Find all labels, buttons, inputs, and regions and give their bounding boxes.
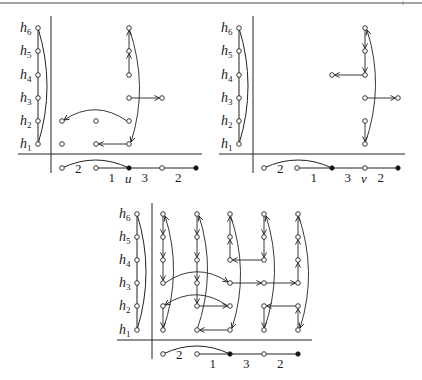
grid-node — [195, 258, 200, 263]
grid-node — [363, 142, 368, 147]
bottom-node-open — [262, 352, 267, 357]
grid-node — [228, 258, 233, 263]
row-label-h3: h3 — [20, 90, 32, 107]
grid-node — [127, 49, 132, 54]
bottom-node-filled — [330, 166, 334, 170]
grid-node — [363, 119, 368, 124]
grid-node — [60, 142, 65, 147]
row-label-h5: h5 — [20, 43, 32, 60]
row-label-h3: h3 — [119, 275, 131, 292]
h-chain-arc — [137, 214, 146, 330]
bottom-node-filled — [228, 352, 232, 356]
edge-weight-label: 3 — [142, 170, 149, 185]
h-node — [135, 258, 140, 263]
h-node — [36, 26, 41, 31]
h-node — [135, 304, 140, 309]
grid-node — [228, 304, 233, 309]
grid-node — [396, 96, 401, 101]
h-node — [36, 119, 41, 124]
bottom-node-filled — [194, 166, 198, 170]
edge-weight-label: 1 — [311, 170, 318, 185]
grid-node — [127, 73, 132, 78]
grid-node — [262, 235, 267, 240]
h-node — [36, 142, 41, 147]
grid-node — [161, 304, 166, 309]
edge-arrow — [163, 216, 174, 330]
grid-node — [160, 96, 165, 101]
grid-node — [161, 258, 166, 263]
grid-node — [363, 73, 368, 78]
edge-weight-label: 2 — [175, 170, 182, 185]
bottom-node-open — [160, 166, 165, 171]
grid-node — [228, 235, 233, 240]
bottom-node-open — [94, 166, 99, 171]
row-label-h1: h1 — [221, 136, 233, 153]
grid-node — [262, 212, 267, 217]
row-label-h6: h6 — [20, 20, 32, 37]
grid-node — [296, 304, 301, 309]
row-label-h4: h4 — [20, 67, 32, 84]
edge-weight-label: 2 — [176, 347, 183, 362]
edge-weight-label: 3 — [345, 170, 352, 185]
bottom-node-open — [60, 166, 65, 171]
panel-u: h6h5h4h3h2h1u2132 — [18, 16, 202, 186]
grid-node — [195, 328, 200, 333]
grid-node — [161, 328, 166, 333]
grid-node — [127, 26, 132, 31]
edge-arrow — [230, 214, 241, 328]
bottom-node-open — [363, 166, 368, 171]
h-chain-arc — [239, 28, 248, 144]
h-node — [237, 73, 242, 78]
edge-weight-label: 1 — [210, 356, 217, 371]
row-label-h2: h2 — [119, 298, 131, 315]
edge-weight-label: 2 — [277, 356, 284, 371]
edge-weight-label: 2 — [75, 161, 82, 176]
vertex-label-v: v — [361, 171, 367, 186]
grid-node — [296, 328, 301, 333]
grid-node — [330, 73, 335, 78]
grid-node — [127, 119, 132, 124]
h-node — [237, 49, 242, 54]
grid-node — [127, 96, 132, 101]
bottom-node-filled — [296, 352, 300, 356]
grid-node — [161, 235, 166, 240]
grid-node — [228, 212, 233, 217]
edge-weight-label: 2 — [378, 170, 385, 185]
row-label-h2: h2 — [221, 113, 233, 130]
vertex-label-u: u — [125, 171, 132, 186]
row-label-h5: h5 — [119, 229, 131, 246]
grid-node — [228, 281, 233, 286]
h-chain-arc — [38, 28, 47, 144]
panel-v: h6h5h4h3h2h1v2132 — [219, 16, 405, 186]
grid-node — [161, 212, 166, 217]
h-node — [135, 212, 140, 217]
grid-node — [363, 49, 368, 54]
row-label-h5: h5 — [221, 43, 233, 60]
row-label-h4: h4 — [119, 252, 131, 269]
edge-weight-label: 2 — [277, 161, 284, 176]
grid-node — [262, 281, 267, 286]
h-node — [237, 119, 242, 124]
row-label-h1: h1 — [119, 322, 131, 339]
row-label-h4: h4 — [221, 67, 233, 84]
bottom-node-open — [161, 352, 166, 357]
bottom-node-open — [295, 166, 300, 171]
bottom-node-open — [262, 166, 267, 171]
h-node — [237, 142, 242, 147]
grid-node — [228, 328, 233, 333]
grid-node — [262, 304, 267, 309]
edge-arrow — [298, 214, 309, 328]
grid-node — [296, 258, 301, 263]
row-label-h3: h3 — [221, 90, 233, 107]
grid-node — [363, 96, 368, 101]
row-label-h1: h1 — [20, 136, 32, 153]
h-node — [36, 73, 41, 78]
grid-node — [94, 119, 99, 124]
h-node — [135, 281, 140, 286]
edge-arrow — [264, 216, 275, 330]
grid-node — [296, 212, 301, 217]
h-node — [135, 328, 140, 333]
grid-node — [60, 119, 65, 124]
bottom-node-filled — [396, 166, 400, 170]
grid-node — [262, 258, 267, 263]
